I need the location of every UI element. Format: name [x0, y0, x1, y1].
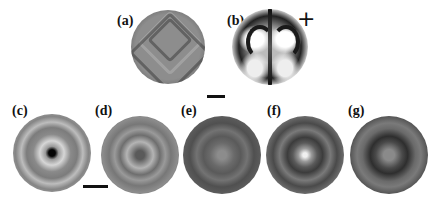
panel-e-image [183, 116, 261, 194]
panel-c-image [13, 114, 91, 192]
panel-a-image [131, 10, 205, 84]
panel-label-c: (c) [12, 104, 28, 118]
panel-f-image [266, 116, 344, 194]
panel-label-g: (g) [348, 104, 364, 118]
scale-bar-top [207, 95, 225, 98]
figure-canvas: (a) (b) + (c) (d) (e) (f) (g) [0, 0, 444, 201]
dark-lobe [272, 25, 300, 59]
scale-bar-bottom [83, 185, 108, 188]
panel-label-f: (f) [267, 104, 281, 118]
panel-g-image [350, 116, 428, 194]
diamond-fringe [131, 12, 205, 84]
panel-label-e: (e) [181, 104, 197, 118]
polarizer-cross-marker: + [297, 8, 315, 30]
center-stripe [268, 9, 272, 85]
panel-label-a: (a) [117, 14, 133, 28]
panel-label-d: (d) [95, 104, 112, 118]
panel-d-image [101, 116, 179, 194]
